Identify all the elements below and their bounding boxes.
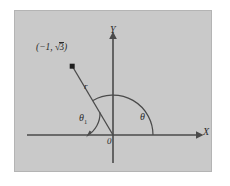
point-label-close: ) [64, 42, 67, 52]
origin-label: 0 [107, 137, 112, 146]
point-coordinate-label: (−1, √3) [36, 42, 67, 53]
square-root-group: √3 [55, 42, 64, 53]
reference-angle-arrowhead [86, 131, 91, 138]
plotted-point-marker [70, 64, 75, 69]
y-axis-label: Y [110, 25, 116, 35]
point-label-x: −1, [39, 42, 53, 52]
reference-angle-subscript: 1 [84, 118, 87, 125]
radius-label: r [84, 82, 88, 91]
standard-angle-label: θ [140, 112, 145, 122]
polar-diagram-figure: (−1, √3) r θ1 θ 0 X Y [0, 0, 230, 186]
x-axis-label: X [203, 127, 209, 137]
reference-angle-label: θ1 [79, 113, 87, 126]
